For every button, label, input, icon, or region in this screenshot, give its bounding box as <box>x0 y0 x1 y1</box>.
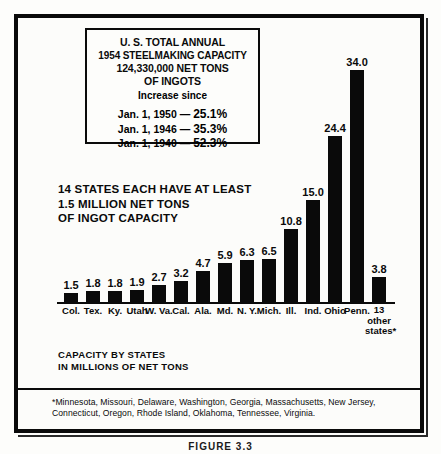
bar-group: 15.0 <box>306 60 321 303</box>
bar-group: 3.8 <box>372 60 387 303</box>
bar <box>306 200 321 303</box>
bar-value-label: 10.8 <box>280 215 301 227</box>
x-axis-label-line: states* <box>365 326 393 337</box>
bar-group: 24.4 <box>328 60 343 303</box>
bar-chart: 1.51.81.81.92.73.24.75.96.36.510.815.024… <box>60 60 390 303</box>
footnote-text: *Minnesota, Missouri, Delaware, Washingt… <box>52 397 392 419</box>
bar-value-label: 6.3 <box>239 246 254 258</box>
x-axis-label-line: 13 <box>365 305 393 316</box>
bar <box>218 263 233 303</box>
capacity-caption-line-1: CAPACITY BY STATES <box>58 349 189 361</box>
bar-group: 6.3 <box>240 60 255 303</box>
bar-group: 10.8 <box>284 60 299 303</box>
bar-group: 1.8 <box>86 60 101 303</box>
bar-group: 2.7 <box>152 60 167 303</box>
bar <box>284 229 299 303</box>
bar-value-label: 1.5 <box>63 279 78 291</box>
bar-value-label: 1.9 <box>129 276 144 288</box>
bar-value-label: 1.8 <box>107 277 122 289</box>
capacity-caption: CAPACITY BY STATES IN MILLIONS OF NET TO… <box>58 349 189 372</box>
bar <box>350 70 365 303</box>
bar-group: 5.9 <box>218 60 233 303</box>
footnote-separator <box>17 388 421 390</box>
bar <box>174 281 189 303</box>
bar-value-label: 2.7 <box>151 271 166 283</box>
bar <box>152 285 167 304</box>
x-axis-labels: Col.Tex.Ky.UtahW. Va.Cal.Ala.Md.N. Y.Mic… <box>60 305 390 335</box>
bar-value-label: 3.8 <box>371 263 386 275</box>
bar-group: 1.9 <box>130 60 145 303</box>
bar-group: 1.5 <box>64 60 79 303</box>
bar-value-label: 34.0 <box>346 56 367 68</box>
bar <box>372 277 387 303</box>
bar-group: 3.2 <box>174 60 189 303</box>
capacity-caption-line-2: IN MILLIONS OF NET TONS <box>58 361 189 373</box>
chart-baseline-axis <box>57 302 395 304</box>
x-axis-label: 13otherstates* <box>365 305 393 337</box>
figure-steelmaking-capacity: U. S. TOTAL ANNUAL 1954 STEELMAKING CAPA… <box>0 0 441 454</box>
bar-value-label: 6.5 <box>261 245 276 257</box>
bar-value-label: 5.9 <box>217 249 232 261</box>
title-line-1: U. S. TOTAL ANNUAL <box>87 36 258 49</box>
bar-value-label: 15.0 <box>302 186 323 198</box>
bar-value-label: 1.8 <box>85 277 100 289</box>
bar-value-label: 4.7 <box>195 257 210 269</box>
bar <box>262 259 277 304</box>
bar-group: 6.5 <box>262 60 277 303</box>
bar-group: 4.7 <box>196 60 211 303</box>
bar-value-label: 3.2 <box>173 267 188 279</box>
bar-group: 34.0 <box>350 60 365 303</box>
bar <box>196 271 211 303</box>
figure-caption: FIGURE 3.3 <box>0 441 441 452</box>
bar <box>240 260 255 303</box>
bar <box>328 136 343 303</box>
bar-group: 1.8 <box>108 60 123 303</box>
bar-value-label: 24.4 <box>324 122 345 134</box>
